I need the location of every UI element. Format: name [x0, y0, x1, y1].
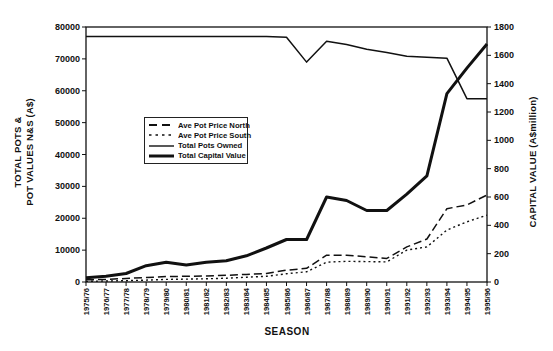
right-tick-label: 1200	[494, 107, 514, 117]
left-tick-label: 70000	[55, 54, 80, 64]
right-tick-label: 1800	[494, 22, 514, 32]
left-tick-label: 80000	[55, 22, 80, 32]
x-tick-label: 1982/83	[222, 288, 231, 315]
left-tick-label: 10000	[55, 245, 80, 255]
x-tick-label: 1979/80	[162, 288, 171, 315]
x-tick-label: 1976/77	[102, 288, 111, 315]
x-tick-label: 1975/76	[82, 288, 91, 315]
right-tick-label: 0	[494, 277, 499, 287]
right-axis-title: CAPITAL VALUE (A$million)	[527, 96, 538, 227]
legend-label: Total Capital Value	[178, 151, 246, 160]
left-tick-label: 30000	[55, 181, 80, 191]
x-tick-label: 1987/88	[323, 288, 332, 315]
series-line-ave-pot-price-south	[86, 215, 487, 281]
x-tick-label: 1988/89	[343, 288, 352, 315]
x-tick-label: 1990/91	[383, 288, 392, 315]
right-tick-label: 600	[494, 192, 509, 202]
left-tick-label: 20000	[55, 213, 80, 223]
right-tick-label: 1600	[494, 50, 514, 60]
x-tick-label: 1983/84	[242, 287, 251, 315]
x-tick-label: 1991/92	[403, 288, 412, 315]
short-dash-line-icon	[148, 131, 175, 139]
legend-label: Ave Pot Price South	[178, 131, 251, 140]
x-tick-label: 1986/87	[303, 288, 312, 315]
legend-label: Total Pots Owned	[178, 141, 242, 150]
x-tick-label: 1984/85	[262, 288, 271, 315]
x-axis-title: SEASON	[264, 326, 309, 337]
x-tick-label: 1980/81	[182, 288, 191, 315]
x-tick-label: 1985/86	[283, 288, 292, 315]
legend-item-ave-pot-price-south: Ave Pot Price South	[148, 130, 244, 140]
x-tick-label: 1994/95	[463, 288, 472, 315]
right-tick-label: 800	[494, 164, 509, 174]
x-tick-label: 1995/96	[483, 288, 492, 315]
legend-item-total-pots-owned: Total Pots Owned	[148, 141, 244, 151]
x-tick-label: 1978/79	[142, 288, 151, 315]
thin-solid-line-icon	[148, 142, 175, 150]
x-tick-label: 1992/93	[423, 288, 432, 315]
x-tick-label: 1989/90	[363, 288, 372, 315]
plot-area: 0100002000030000400005000060000700008000…	[55, 22, 514, 315]
thick-solid-line-icon	[148, 152, 175, 160]
right-tick-label: 1400	[494, 79, 514, 89]
left-axis-title-line1: TOTAL POTS &	[12, 116, 23, 187]
right-tick-label: 400	[494, 220, 509, 230]
legend-label: Ave Pot Price North	[178, 121, 250, 130]
right-tick-label: 1000	[494, 135, 514, 145]
x-tick-label: 1993/94	[443, 287, 452, 315]
legend: Ave Pot Price North Ave Pot Price South …	[144, 117, 248, 164]
left-tick-label: 50000	[55, 118, 80, 128]
long-dash-line-icon	[148, 121, 175, 129]
legend-item-total-capital-value: Total Capital Value	[148, 151, 244, 161]
left-tick-label: 40000	[55, 150, 80, 160]
x-tick-label: 1977/78	[122, 288, 131, 315]
chart-canvas: TOTAL POTS & POT VALUES N&S (A$) CAPITAL…	[0, 0, 553, 351]
right-tick-label: 200	[494, 249, 509, 259]
left-axis-title-line2: POT VALUES N&S (A$)	[24, 98, 35, 206]
x-tick-label: 1981/82	[202, 288, 211, 315]
left-tick-label: 60000	[55, 86, 80, 96]
left-tick-label: 0	[75, 277, 80, 287]
chart: TOTAL POTS & POT VALUES N&S (A$) CAPITAL…	[0, 0, 553, 351]
legend-item-ave-pot-price-north: Ave Pot Price North	[148, 120, 244, 130]
series-line-total-pots-owned	[86, 37, 487, 99]
